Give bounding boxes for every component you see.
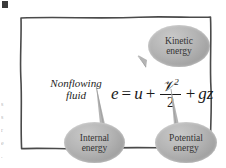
callout-kinetic-line1: Kinetic <box>165 36 193 46</box>
page-edge-text-fragment: e <box>1 140 10 147</box>
page-edge-text-fragment: s <box>1 101 10 108</box>
callout-potential-text: Potential energy <box>169 133 203 153</box>
page-edge-mark <box>2 1 8 8</box>
callout-kinetic-energy: Kinetic energy <box>148 25 210 67</box>
diagram-panel: Nonflowing fluid e = u + 𝒱2 2 + gz <box>19 15 213 150</box>
callout-internal-text: Internal energy <box>80 133 110 153</box>
page-edge-text-fragment: . <box>1 153 10 160</box>
page-edge-text-fragment: r <box>1 127 10 134</box>
callout-kinetic-line2: energy <box>166 46 192 56</box>
callout-potential-energy: Potential energy <box>155 122 217 163</box>
callout-potential-line2: energy <box>173 143 199 153</box>
callout-internal-line2: energy <box>82 143 108 153</box>
figure-container: s s r e . Nonflowing fluid e = u + 𝒱2 2 … <box>0 0 226 168</box>
callout-potential-line1: Potential <box>169 133 203 143</box>
page-edge-text-fragment: s <box>1 114 10 121</box>
callout-internal-energy: Internal energy <box>64 122 125 163</box>
callout-internal-line1: Internal <box>80 133 110 143</box>
callout-kinetic-text: Kinetic energy <box>165 36 193 56</box>
